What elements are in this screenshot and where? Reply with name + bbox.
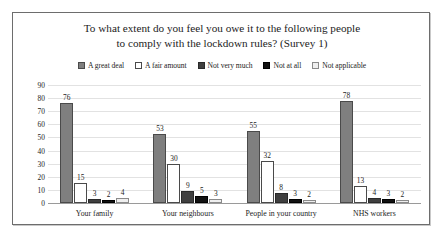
y-axis-tick: 30 — [23, 159, 45, 168]
bar-slot: 3 — [88, 85, 101, 203]
bar-value-label: 3 — [293, 189, 297, 198]
y-axis-tick: 50 — [23, 133, 45, 142]
bars-container: 5532832 — [235, 85, 328, 203]
legend-label: A fair amount — [145, 61, 187, 70]
bar-value-label: 3 — [387, 189, 391, 198]
chart-title: To what extent do you feel you owe it to… — [13, 21, 431, 50]
legend-item-1[interactable]: A fair amount — [135, 61, 187, 70]
bar-value-label: 55 — [249, 121, 256, 130]
bar-slot: 78 — [340, 85, 353, 203]
bar[interactable] — [382, 199, 395, 203]
bar-value-label: 15 — [77, 173, 84, 182]
legend-swatch-icon — [78, 62, 85, 69]
y-axis-tick: 70 — [23, 107, 45, 116]
chart-title-line-1: To what extent do you feel you owe it to… — [13, 21, 431, 36]
bar-slot: 2 — [303, 85, 316, 203]
plot-region: 9080706050403020100 76153245330953553283… — [13, 85, 431, 226]
legend-label: A great deal — [88, 61, 124, 70]
bar-slot: 9 — [181, 85, 194, 203]
x-axis-label: Your family — [48, 209, 141, 218]
bar-value-label: 4 — [121, 188, 125, 197]
bar-slot: 53 — [153, 85, 166, 203]
y-axis-tick: 90 — [23, 81, 45, 90]
bar[interactable] — [102, 200, 115, 203]
legend-item-0[interactable]: A great deal — [78, 61, 124, 70]
bar[interactable] — [368, 198, 381, 203]
bar[interactable] — [74, 183, 87, 203]
legend-item-4[interactable]: Not applicable — [312, 61, 366, 70]
bar-groups: 7615324533095355328327813432 — [48, 85, 421, 203]
bar-value-label: 2 — [307, 190, 311, 199]
bar-slot: 13 — [354, 85, 367, 203]
bar[interactable] — [261, 161, 274, 203]
bar-value-label: 4 — [373, 188, 377, 197]
legend-swatch-icon — [263, 62, 270, 69]
bar-value-label: 32 — [263, 151, 270, 160]
plot-area: 7615324533095355328327813432 — [48, 85, 421, 204]
bar-slot: 76 — [60, 85, 73, 203]
bar-slot: 8 — [275, 85, 288, 203]
y-axis-tick: 0 — [23, 199, 45, 208]
bar[interactable] — [247, 131, 260, 203]
bar[interactable] — [396, 200, 409, 203]
y-axis: 9080706050403020100 — [23, 85, 45, 203]
x-axis-label: People in your country — [235, 209, 328, 218]
legend-swatch-icon — [135, 62, 142, 69]
legend-item-3[interactable]: Not at all — [263, 61, 301, 70]
bar-value-label: 30 — [170, 154, 177, 163]
legend-label: Not applicable — [322, 61, 366, 70]
bar[interactable] — [195, 196, 208, 203]
bar-value-label: 3 — [214, 189, 218, 198]
bar[interactable] — [303, 200, 316, 203]
bar-value-label: 5 — [200, 186, 204, 195]
bar-slot: 15 — [74, 85, 87, 203]
legend-item-2[interactable]: Not very much — [198, 61, 253, 70]
bar-slot: 4 — [116, 85, 129, 203]
bar-value-label: 3 — [93, 189, 97, 198]
bars-container: 7813432 — [328, 85, 421, 203]
x-axis-labels: Your familyYour neighboursPeople in your… — [48, 209, 421, 218]
bar[interactable] — [60, 103, 73, 203]
bar[interactable] — [116, 198, 129, 203]
bar[interactable] — [181, 191, 194, 203]
x-axis-label: Your neighbours — [141, 209, 234, 218]
bar-slot: 55 — [247, 85, 260, 203]
bar[interactable] — [340, 101, 353, 203]
bar[interactable] — [153, 134, 166, 203]
bar-slot: 32 — [261, 85, 274, 203]
chart-figure: To what extent do you feel you owe it to… — [12, 12, 430, 225]
bar-value-label: 8 — [279, 183, 283, 192]
bar-group: 7615324 — [48, 85, 141, 203]
bar-group: 5532832 — [235, 85, 328, 203]
y-axis-tick: 60 — [23, 120, 45, 129]
bar-slot: 3 — [382, 85, 395, 203]
bar[interactable] — [275, 193, 288, 203]
bar-slot: 5 — [195, 85, 208, 203]
bar-slot: 3 — [289, 85, 302, 203]
chart-legend: A great dealA fair amountNot very muchNo… — [13, 61, 431, 70]
bar[interactable] — [354, 186, 367, 203]
bar[interactable] — [88, 199, 101, 203]
bar[interactable] — [289, 199, 302, 203]
bar-value-label: 13 — [357, 176, 364, 185]
legend-label: Not at all — [273, 61, 301, 70]
legend-label: Not very much — [208, 61, 253, 70]
bar-value-label: 78 — [343, 91, 350, 100]
bar-slot: 4 — [368, 85, 381, 203]
bars-container: 7615324 — [48, 85, 141, 203]
bar-value-label: 76 — [63, 93, 70, 102]
legend-swatch-icon — [198, 62, 205, 69]
bar-group: 7813432 — [328, 85, 421, 203]
bar-slot: 2 — [396, 85, 409, 203]
legend-swatch-icon — [312, 62, 319, 69]
bar-slot: 2 — [102, 85, 115, 203]
chart-title-line-2: to comply with the lockdown rules? (Surv… — [13, 36, 431, 51]
bar-slot: 30 — [167, 85, 180, 203]
bar[interactable] — [167, 164, 180, 203]
y-axis-tick: 80 — [23, 94, 45, 103]
bar-group: 5330953 — [141, 85, 234, 203]
y-axis-tick: 40 — [23, 146, 45, 155]
bar-slot: 3 — [209, 85, 222, 203]
bar[interactable] — [209, 199, 222, 203]
x-axis-label: NHS workers — [328, 209, 421, 218]
